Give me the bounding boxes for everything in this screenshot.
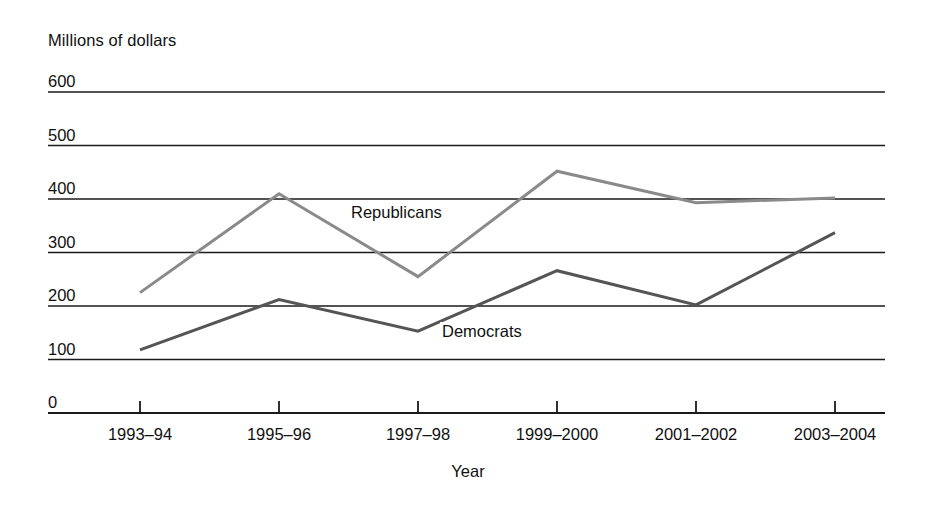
y-axis-tick-label: 200: [48, 287, 76, 304]
x-axis-tick-label: 2001–2002: [655, 425, 738, 444]
x-axis-title: Year: [0, 462, 936, 481]
series-label-republicans: Republicans: [349, 203, 444, 222]
x-axis-tick-label: 1997–98: [386, 425, 450, 444]
y-axis-tick-label: 300: [48, 234, 76, 251]
series-label-democrats: Democrats: [440, 322, 524, 341]
y-axis-tick-label: 100: [48, 341, 76, 358]
y-axis-tick-label: 500: [48, 127, 76, 144]
y-axis-tick-label: 0: [48, 394, 57, 411]
series-line-republicans: [140, 171, 835, 292]
y-axis-tick-label: 400: [48, 180, 76, 197]
x-axis-tick-label: 1995–96: [247, 425, 311, 444]
x-axis-tick-label: 1999–2000: [516, 425, 599, 444]
x-axis-tick-label: 2003–2004: [794, 425, 877, 444]
x-axis-ticks: [140, 401, 835, 413]
x-axis-tick-label: 1993–94: [108, 425, 172, 444]
line-chart: Millions of dollars 6005004003002001000 …: [0, 0, 936, 509]
gridlines: [48, 92, 885, 413]
y-axis-tick-label: 600: [48, 73, 76, 90]
